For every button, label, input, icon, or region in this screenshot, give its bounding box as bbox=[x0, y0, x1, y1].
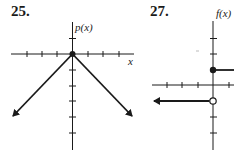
graph-25-function-label: p(x) bbox=[74, 21, 93, 34]
graph-25-left-ray bbox=[13, 54, 73, 116]
graph-27-closed-dot bbox=[210, 67, 216, 73]
graph-27-open-circle bbox=[210, 98, 216, 104]
graph-25-right-ray bbox=[73, 54, 133, 116]
graph-25-vertex-dot bbox=[70, 51, 76, 57]
graph-27-function-label: f(x) bbox=[216, 7, 232, 20]
scan-smudge bbox=[196, 50, 199, 52]
graph-25: p(x) x bbox=[11, 21, 134, 150]
graph-25-x-label: x bbox=[127, 55, 133, 67]
graph-27: f(x) bbox=[152, 7, 234, 150]
graphs-canvas: p(x) x f(x) bbox=[0, 0, 234, 157]
